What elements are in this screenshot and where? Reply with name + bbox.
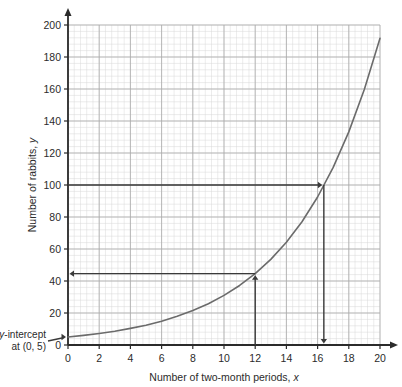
x-tick-label: 8 [190, 352, 196, 364]
y-tick-label: 100 [43, 179, 61, 191]
x-tick-label: 18 [343, 352, 355, 364]
y-tick-label: 140 [43, 115, 61, 127]
x-tick-label: 16 [312, 352, 324, 364]
y-tick-label: 0 [55, 339, 61, 351]
chart-canvas: 02468101214161820 0204060801001201401601… [0, 0, 402, 387]
y-tick-label: 160 [43, 83, 61, 95]
y-axis-title: Number of rabbits, y [26, 137, 38, 232]
x-tick-label: 20 [374, 352, 386, 364]
x-tick-label: 6 [159, 352, 165, 364]
x-tick-label: 14 [281, 352, 293, 364]
y-intercept-label-line2: at (0, 5) [12, 341, 46, 352]
x-tick-label: 10 [218, 352, 230, 364]
x-tick-label: 12 [249, 352, 261, 364]
y-intercept-label-line1: y-intercept [0, 329, 46, 340]
y-tick-label: 180 [43, 51, 61, 63]
y-tick-label: 200 [43, 19, 61, 31]
x-tick-label: 4 [127, 352, 133, 364]
x-tick-label: 0 [65, 352, 71, 364]
y-tick-label: 20 [49, 307, 61, 319]
y-tick-label: 40 [49, 275, 61, 287]
x-axis-title: Number of two-month periods, x [149, 371, 299, 383]
exponential-growth-chart: 02468101214161820 0204060801001201401601… [0, 0, 402, 387]
y-tick-label: 120 [43, 147, 61, 159]
x-tick-label: 2 [96, 352, 102, 364]
y-tick-label: 80 [49, 211, 61, 223]
y-tick-label: 60 [49, 243, 61, 255]
